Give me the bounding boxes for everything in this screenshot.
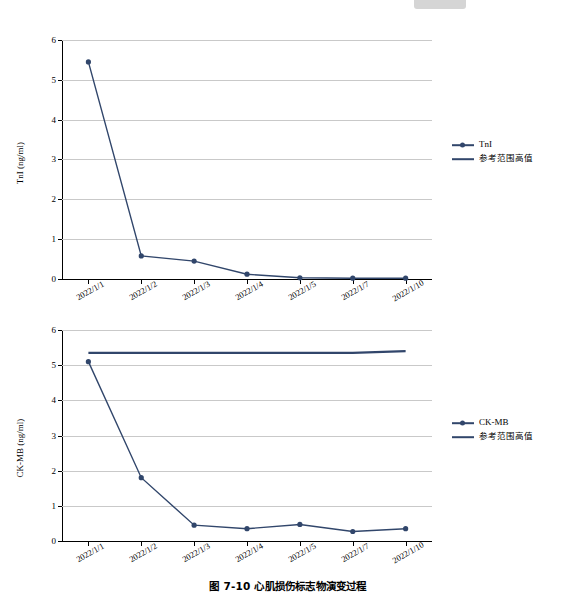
ytick-label-5: 5 [52, 75, 57, 84]
data-point [244, 272, 249, 277]
series-plot-tni [62, 40, 432, 280]
data-point [139, 475, 144, 480]
xtick-label-5: 2022/1/7 [340, 541, 370, 563]
xtick-mark-0 [88, 542, 89, 546]
figure-caption: 图 7-10 心肌损伤标志物演变过程 [0, 578, 576, 593]
legend-item-reference: 参考范围高值 [452, 152, 533, 166]
xtick-label-3: 2022/1/4 [234, 541, 264, 563]
data-point [350, 529, 355, 534]
ytick-label-2: 2 [52, 195, 57, 204]
figure-page: TnI (ng/ml) 6 5 4 3 2 1 0 [0, 0, 576, 606]
legend-label-ckmb: CK-MB [479, 416, 509, 430]
xtick-label-4: 2022/1/5 [287, 279, 317, 301]
y-axis-title-ckmb: CK-MB (ng/ml) [15, 419, 25, 478]
data-point [297, 275, 302, 280]
xtick-mark-1 [141, 542, 142, 546]
xtick-label-5: 2022/1/7 [340, 279, 370, 301]
legend-item-ckmb: CK-MB [452, 416, 533, 430]
xtick-label-0: 2022/1/1 [75, 541, 105, 563]
xtick-mark-2 [194, 280, 195, 284]
xtick-label-2: 2022/1/3 [181, 541, 211, 563]
y-axis-title-tni: TnI (ng/ml) [15, 142, 25, 184]
legend-label-reference: 参考范围高值 [479, 152, 533, 165]
data-point [192, 258, 197, 263]
data-point [297, 522, 302, 527]
xtick-label-0: 2022/1/1 [75, 279, 105, 301]
ytick-label-1: 1 [52, 501, 57, 510]
data-point [86, 59, 91, 64]
legend-label-tni: TnI [479, 138, 492, 152]
series-line-0 [88, 62, 405, 278]
xtick-label-6: 2022/1/10 [391, 540, 425, 565]
data-point [192, 523, 197, 528]
data-point [403, 526, 408, 531]
xtick-label-6: 2022/1/10 [391, 278, 425, 303]
legend-tni: TnI 参考范围高值 [452, 138, 533, 166]
ytick-label-0: 0 [52, 275, 57, 284]
ytick-label-5: 5 [52, 361, 57, 370]
xtick-mark-0 [88, 280, 89, 284]
chart-tni: TnI (ng/ml) 6 5 4 3 2 1 0 [0, 28, 576, 298]
line-icon [452, 154, 474, 164]
legend-ckmb: CK-MB 参考范围高值 [452, 416, 533, 444]
data-point [139, 253, 144, 258]
xtick-mark-5 [353, 542, 354, 546]
line-marker-icon [452, 418, 474, 428]
xtick-mark-4 [300, 280, 301, 284]
legend-item-reference: 参考范围高值 [452, 430, 533, 444]
xtick-mark-6 [406, 542, 407, 546]
legend-label-reference: 参考范围高值 [479, 430, 533, 443]
xtick-mark-3 [247, 542, 248, 546]
line-icon [452, 432, 474, 442]
data-point [244, 526, 249, 531]
series-line-1 [88, 351, 405, 353]
legend-item-tni: TnI [452, 138, 533, 152]
xtick-mark-4 [300, 542, 301, 546]
ytick-label-2: 2 [52, 466, 57, 475]
chart-ckmb: CK-MB (ng/ml) 6 5 4 3 2 1 0 [0, 318, 576, 578]
line-marker-icon [452, 140, 474, 150]
data-point [403, 276, 408, 281]
grey-tab [414, 0, 466, 9]
xtick-mark-2 [194, 542, 195, 546]
data-point [86, 359, 91, 364]
ytick-label-4: 4 [52, 396, 57, 405]
data-point [350, 276, 355, 281]
ytick-label-0: 0 [52, 537, 57, 546]
series-line-0 [88, 362, 405, 532]
ytick-label-6: 6 [52, 36, 57, 45]
plot-area-ckmb: 6 5 4 3 2 1 0 2022/1/1 2022/1/2 2022/1/3 [62, 330, 432, 542]
xtick-mark-3 [247, 280, 248, 284]
xtick-label-1: 2022/1/2 [128, 541, 158, 563]
ytick-label-3: 3 [52, 155, 57, 164]
xtick-label-4: 2022/1/5 [287, 541, 317, 563]
xtick-label-2: 2022/1/3 [181, 279, 211, 301]
ytick-label-6: 6 [52, 326, 57, 335]
plot-area-tni: 6 5 4 3 2 1 0 2022/1/1 2022/1/2 20 [62, 40, 432, 280]
ytick-label-1: 1 [52, 235, 57, 244]
series-plot-ckmb [62, 330, 432, 542]
ytick-label-4: 4 [52, 115, 57, 124]
xtick-label-3: 2022/1/4 [234, 279, 264, 301]
xtick-mark-1 [141, 280, 142, 284]
xtick-label-1: 2022/1/2 [128, 279, 158, 301]
ytick-label-3: 3 [52, 431, 57, 440]
